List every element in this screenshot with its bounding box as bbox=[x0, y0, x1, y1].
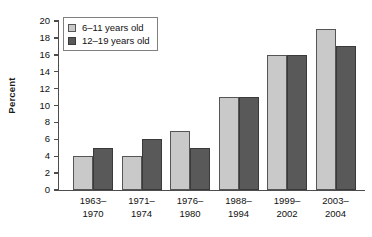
bar bbox=[219, 97, 239, 190]
x-axis-tick-label: 2003–2004 bbox=[301, 195, 371, 220]
legend-label-series-a: 6–11 years old bbox=[82, 22, 144, 33]
y-axis-tick-label: 2 bbox=[45, 166, 50, 180]
bar bbox=[287, 55, 307, 190]
chart-legend: 6–11 years old 12–19 years old bbox=[63, 17, 158, 51]
legend-label-series-b: 12–19 years old bbox=[82, 35, 150, 46]
legend-swatch-icon-series-b bbox=[68, 37, 76, 45]
bar bbox=[190, 148, 210, 190]
bar bbox=[142, 139, 162, 190]
bar bbox=[93, 148, 113, 190]
bar-group bbox=[267, 21, 307, 190]
y-axis-tick-label: 4 bbox=[45, 149, 50, 163]
bar bbox=[316, 29, 336, 190]
bar-group bbox=[170, 21, 210, 190]
legend-swatch-icon-series-a bbox=[68, 24, 76, 32]
bar bbox=[267, 55, 287, 190]
y-axis-tick-label: 10 bbox=[39, 99, 50, 113]
y-axis-tick-label: 20 bbox=[39, 14, 50, 28]
y-axis-tick-label: 8 bbox=[45, 115, 50, 129]
y-axis-tick-label: 0 bbox=[45, 183, 50, 197]
y-axis-tick-label: 14 bbox=[39, 65, 50, 79]
y-axis-title: Percent bbox=[0, 0, 22, 190]
bar bbox=[170, 131, 190, 190]
bar-group bbox=[316, 21, 356, 190]
bar bbox=[122, 156, 142, 190]
bar bbox=[239, 97, 259, 190]
legend-item-series-a: 6–11 years old bbox=[68, 21, 150, 34]
bar-chart: Percent 02468101214161820 1963–19701971–… bbox=[0, 0, 372, 237]
bar bbox=[73, 156, 93, 190]
legend-item-series-b: 12–19 years old bbox=[68, 34, 150, 47]
bar bbox=[336, 46, 356, 190]
y-axis-tick-label: 18 bbox=[39, 31, 50, 45]
y-axis-tick-label: 6 bbox=[45, 132, 50, 146]
y-axis-tick-label: 12 bbox=[39, 82, 50, 96]
y-axis-tick-label: 16 bbox=[39, 48, 50, 62]
y-axis-title-text: Percent bbox=[6, 77, 17, 113]
bar-group bbox=[219, 21, 259, 190]
